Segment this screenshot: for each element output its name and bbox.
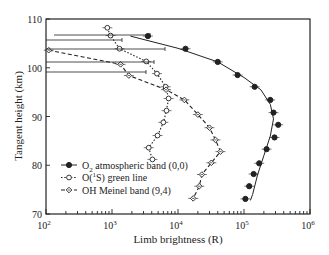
legend-item: O(1S) green line (61, 171, 148, 184)
y-tick-label: 100 (27, 63, 42, 74)
x-tick-label: 105 (235, 219, 249, 231)
legend-label: OH Meinel band (9,4) (82, 185, 171, 197)
y-tick-label: 80 (32, 160, 42, 171)
series-layer (44, 25, 283, 201)
x-axis-ticks: 102103104105106 (37, 209, 315, 231)
legend-item: OH Meinel band (9,4) (61, 185, 171, 197)
x-tick-label: 104 (169, 219, 183, 231)
y-tick-label: 110 (27, 14, 42, 25)
y-axis-label: Tangent height (km) (12, 71, 25, 161)
x-tick-label: 103 (103, 219, 117, 231)
x-axis-label: Limb brightness (R) (133, 233, 223, 246)
legend: O2 atmospheric band (0,0)O(1S) green lin… (61, 160, 188, 197)
chart: 102103104105106 110100908070 O2 atmosphe… (0, 0, 329, 255)
x-tick-label: 102 (37, 219, 51, 231)
series-1 (102, 25, 173, 161)
legend-label: O(1S) green line (82, 171, 148, 184)
y-tick-label: 90 (32, 112, 42, 123)
x-tick-label: 106 (301, 219, 315, 231)
y-tick-label: 70 (32, 209, 42, 220)
series-0 (130, 33, 283, 201)
